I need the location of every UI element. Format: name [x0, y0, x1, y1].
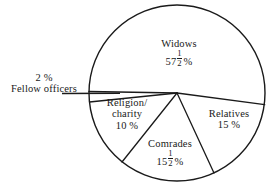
pie-chart: Widows 5712 % Relatives 15 % Comrades 15… [0, 0, 279, 190]
pie-label-religion-charity-line1: Religion/ [95, 97, 159, 108]
pie-label-fellow-officers-name: Fellow officers [2, 83, 86, 94]
pie-label-relatives: Relatives 15 % [196, 108, 262, 131]
comrades-value-fraction: 12 [168, 149, 174, 168]
pie-label-relatives-value: 15 % [196, 119, 262, 130]
pie-label-religion-charity: Religion/ charity 10 % [95, 97, 159, 131]
pie-label-religion-charity-line2: charity [95, 108, 159, 119]
widows-value-whole: 57 [166, 56, 177, 67]
widows-value-suffix: % [184, 56, 193, 67]
pie-label-religion-charity-value: 10 % [95, 120, 159, 131]
widows-value-fraction: 12 [177, 49, 183, 68]
pie-label-widows-value: 5712 % [139, 49, 219, 68]
widows-fraction-denominator: 2 [177, 59, 183, 68]
pie-label-comrades: Comrades 1512 % [134, 138, 206, 168]
pie-label-fellow-officers-value: 2 % [2, 72, 86, 83]
comrades-value-whole: 15 [157, 156, 168, 167]
comrades-fraction-denominator: 2 [168, 159, 174, 168]
pie-label-widows: Widows 5712 % [139, 38, 219, 68]
comrades-value-suffix: % [175, 156, 184, 167]
pie-label-relatives-name: Relatives [196, 108, 262, 119]
pie-label-comrades-value: 1512 % [134, 149, 206, 168]
pie-label-fellow-officers: 2 % Fellow officers [2, 72, 86, 95]
